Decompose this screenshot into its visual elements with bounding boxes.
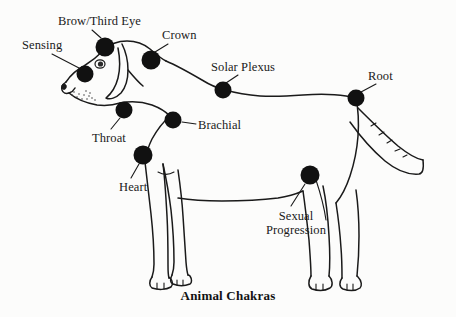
leader-throat: [111, 118, 120, 129]
chakra-label-brachial: Brachial: [198, 118, 241, 132]
rear-leg-far-front: [336, 203, 342, 278]
rear-leg-far-back: [356, 190, 359, 276]
leader-root: [361, 84, 376, 92]
chakra-dot-heart: [134, 146, 153, 165]
chakra-dot-brachial: [165, 112, 182, 129]
muzzle-lower-jaw: [69, 93, 120, 105]
shoulder-crease: [158, 172, 174, 174]
chakra-dot-crown: [142, 51, 161, 70]
front-leg-far-back: [178, 170, 188, 275]
figure-title: Animal Chakras: [0, 288, 456, 304]
muzzle-speckles: [71, 90, 96, 101]
leader-brow-third-eye: [92, 30, 101, 38]
leader-heart: [131, 164, 139, 178]
chakra-dot-root: [348, 90, 365, 107]
chakra-dot-solar-plexus: [215, 82, 232, 99]
front-paw-far: [171, 275, 192, 286]
animal-chakra-diagram: [0, 0, 456, 317]
leader-solar-plexus: [226, 75, 238, 83]
chakra-label-brow-third-eye: Brow/Third Eye: [58, 14, 141, 28]
figure-canvas: Brow/Third Eye Sensing Crown Solar Plexu…: [0, 0, 456, 317]
chakra-dot-sensing: [77, 66, 94, 83]
chakra-dot-brow-third-eye: [96, 38, 115, 57]
belly-line: [178, 191, 303, 201]
tail-lower: [350, 122, 423, 174]
chakra-dot-sexual-progression: [301, 166, 320, 185]
chakra-label-crown: Crown: [162, 28, 197, 42]
chakra-label-heart: Heart: [119, 180, 147, 194]
nose: [62, 84, 67, 90]
tail-feathering: [371, 123, 407, 157]
chakra-label-sexual-progression-line1: Sexual: [279, 209, 314, 223]
eye-pupil: [98, 61, 103, 66]
rear-haunch: [336, 98, 358, 203]
chakra-label-root: Root: [368, 69, 393, 83]
leader-brachial: [182, 122, 196, 124]
leader-crown: [155, 44, 168, 52]
chakra-label-sexual-progression-line2: Progression: [266, 223, 326, 237]
chakra-label-sensing: Sensing: [22, 38, 62, 52]
chakra-label-solar-plexus: Solar Plexus: [211, 60, 275, 74]
chakra-label-throat: Throat: [92, 131, 126, 145]
tail-upper: [358, 108, 423, 160]
chakra-dot-throat: [116, 102, 133, 119]
chakra-label-sexual-progression: Sexual Progression: [258, 209, 334, 237]
leader-sensing: [52, 54, 79, 68]
front-paw-far-toes: [177, 280, 183, 285]
ear-inner-fold: [128, 70, 143, 86]
